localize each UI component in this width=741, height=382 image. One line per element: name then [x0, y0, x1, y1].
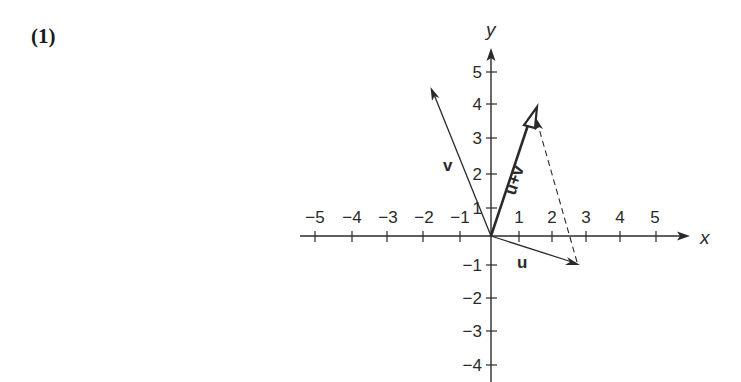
x-tick-label: −1	[450, 208, 469, 227]
y-tick-label: 2	[473, 165, 482, 184]
vector-u-plus-v-label: u+v	[501, 163, 528, 198]
vector-diagram: −5 −4 −3 −2 −1 1 2 3 4 5 x 5 4 3 2 1 −1	[0, 0, 741, 382]
y-tick-label: 3	[473, 129, 482, 148]
x-tick-label: −5	[305, 208, 324, 227]
x-axis-label: x	[699, 227, 711, 248]
vector-u: u	[491, 236, 580, 272]
y-tick-label: 5	[473, 63, 482, 82]
vector-v-label: v	[443, 156, 453, 175]
vector-u-label: u	[517, 253, 527, 272]
y-tick-label: −3	[463, 322, 482, 341]
x-tick-label: −3	[378, 208, 397, 227]
x-tick-label: 2	[547, 208, 556, 227]
y-tick-label: 4	[473, 95, 482, 114]
x-tick-label: 4	[615, 208, 624, 227]
y-tick-label: −4	[463, 356, 482, 375]
x-tick-label: −2	[414, 208, 433, 227]
x-axis: −5 −4 −3 −2 −1 1 2 3 4 5 x	[300, 208, 711, 248]
y-tick-label: −2	[463, 289, 482, 308]
x-tick-label: −4	[342, 208, 361, 227]
x-tick-label: 1	[514, 208, 523, 227]
y-axis-label: y	[484, 19, 497, 40]
vector-v-translated-dashed	[535, 118, 577, 262]
y-tick-label: −1	[463, 256, 482, 275]
vector-v-arrowhead-icon	[431, 87, 440, 101]
x-tick-label: 5	[650, 208, 659, 227]
x-tick-label: 3	[581, 208, 590, 227]
y-axis: 5 4 3 2 1 −1 −2 −3 −4 y	[463, 19, 497, 382]
vector-u-plus-v-hollow-arrowhead-icon	[524, 107, 537, 128]
